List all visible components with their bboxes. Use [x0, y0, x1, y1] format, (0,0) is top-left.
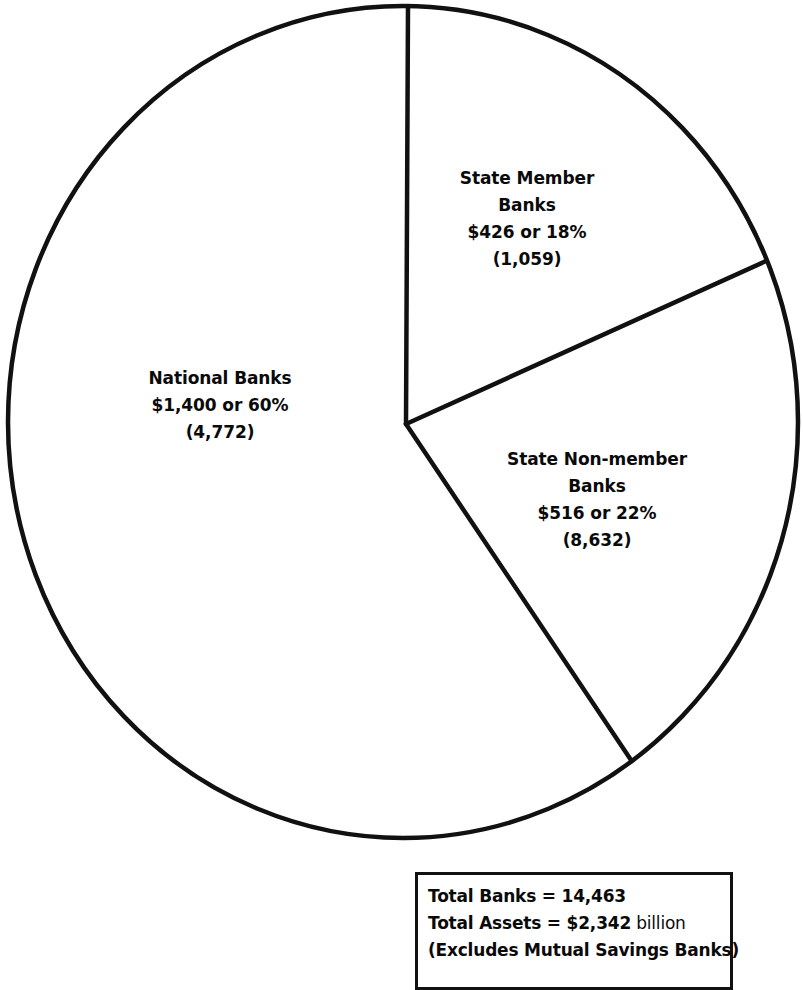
- summary-total-assets-bold: Total Assets = $2,342: [428, 913, 631, 933]
- slice-divider-top: [406, 6, 408, 424]
- slice-label-state-non-member-banks-count: (8,632): [492, 527, 702, 554]
- slice-label-state-member-banks: State Member Banks $426 or 18% (1,059): [427, 165, 627, 273]
- slice-label-national-banks-amount: $1,400 or 60%: [100, 392, 340, 419]
- slice-label-state-non-member-banks-amount: $516 or 22%: [492, 500, 702, 527]
- summary-exclusion-note: (Excludes Mutual Savings Banks): [428, 937, 730, 964]
- slice-label-state-non-member-banks-name-2: Banks: [492, 473, 702, 500]
- summary-total-assets-unit: billion: [631, 913, 686, 933]
- summary-total-banks: Total Banks = 14,463: [428, 883, 730, 910]
- slice-label-national-banks-count: (4,772): [100, 419, 340, 446]
- summary-total-assets: Total Assets = $2,342 billion: [428, 910, 730, 937]
- slice-label-state-non-member-banks: State Non-member Banks $516 or 22% (8,63…: [492, 446, 702, 554]
- summary-legend-box: Total Banks = 14,463 Total Assets = $2,3…: [415, 872, 733, 990]
- slice-label-national-banks-name: National Banks: [100, 365, 340, 392]
- slice-label-national-banks: National Banks $1,400 or 60% (4,772): [100, 365, 340, 446]
- slice-label-state-member-banks-amount: $426 or 18%: [427, 219, 627, 246]
- slice-label-state-non-member-banks-name-1: State Non-member: [492, 446, 702, 473]
- slice-label-state-member-banks-name-1: State Member: [427, 165, 627, 192]
- slice-label-state-member-banks-name-2: Banks: [427, 192, 627, 219]
- slice-label-state-member-banks-count: (1,059): [427, 246, 627, 273]
